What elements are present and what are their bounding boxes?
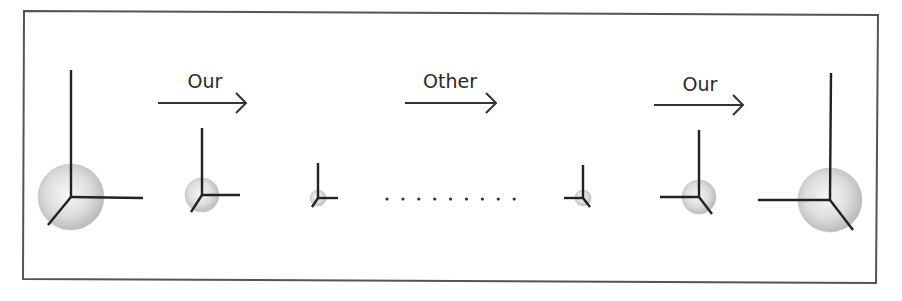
ellipsis-dot bbox=[417, 197, 420, 200]
frame-6-large bbox=[758, 73, 862, 232]
frame-4-small bbox=[564, 165, 591, 207]
frame-border bbox=[23, 11, 878, 283]
diagram-border bbox=[23, 11, 878, 283]
arrow-right-icon bbox=[654, 95, 743, 115]
frame-5-medium bbox=[660, 130, 716, 214]
frame-1-large bbox=[38, 70, 143, 230]
ellipsis-dot bbox=[433, 197, 436, 200]
arrow-right-icon bbox=[158, 93, 246, 113]
transition-label-other: Other bbox=[423, 72, 477, 91]
axis-horizontal bbox=[71, 197, 143, 198]
arrow-right-icon bbox=[405, 93, 496, 113]
coordinate-frames bbox=[38, 70, 862, 232]
ellipsis-dot bbox=[497, 197, 500, 200]
ellipsis-dot bbox=[449, 197, 452, 200]
ellipsis-dot bbox=[401, 197, 404, 200]
ellipsis-dot bbox=[465, 197, 468, 200]
transition-label-our-2: Our bbox=[683, 75, 718, 94]
ellipsis-dot bbox=[481, 197, 484, 200]
diagram-canvas bbox=[0, 0, 902, 301]
axis-vertical bbox=[830, 73, 831, 200]
ellipsis-dot bbox=[513, 197, 516, 200]
ellipsis-dot bbox=[385, 197, 388, 200]
frame-3-small bbox=[310, 163, 338, 207]
ellipsis-dots bbox=[385, 197, 515, 200]
transition-label-our-1: Our bbox=[188, 72, 223, 91]
transition-arrows bbox=[158, 93, 743, 115]
frame-2-medium bbox=[185, 128, 240, 212]
